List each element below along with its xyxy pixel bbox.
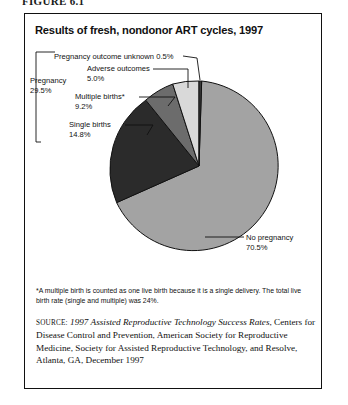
callout-no-pregnancy: No pregnancy 70.5%	[246, 233, 293, 252]
chart-footnote: *A multiple birth is counted as one live…	[36, 286, 312, 306]
figure-frame: Results of fresh, nondonor ART cycles, 1…	[24, 13, 322, 389]
callout-multiple-births-pct: 9.2%	[75, 102, 125, 112]
callout-single-births: Single births 14.8%	[69, 120, 111, 139]
callout-adverse-outcomes-pct: 5.0%	[87, 74, 150, 84]
callout-adverse-outcomes: Adverse outcomes 5.0%	[87, 64, 150, 83]
callout-single-births-text: Single births	[69, 120, 111, 129]
callout-pregnancy-group-text: Pregnancy	[30, 76, 66, 85]
callout-no-pregnancy-text: No pregnancy	[246, 233, 293, 242]
leader-line-unknown	[183, 56, 200, 80]
callout-outcome-unknown-text: Pregnancy outcome unknown 0.5%	[54, 52, 173, 61]
pie-chart: Pregnancy outcome unknown 0.5% Adverse o…	[25, 14, 323, 282]
pregnancy-group-bracket	[36, 52, 55, 142]
callout-adverse-outcomes-text: Adverse outcomes	[87, 64, 150, 73]
callout-multiple-births: Multiple births* 9.2%	[75, 92, 125, 111]
callout-single-births-pct: 14.8%	[69, 130, 111, 140]
source-publication-title: 1997 Assisted Reproductive Technology Su…	[70, 317, 269, 327]
figure-number-label: FIGURE 6.1	[22, 0, 84, 6]
source-keyword: source:	[36, 319, 68, 327]
source-note: source: 1997 Assisted Reproductive Techn…	[36, 316, 318, 367]
callout-multiple-births-text: Multiple births*	[75, 92, 125, 101]
callout-pregnancy-group: Pregnancy 29.5%	[30, 76, 66, 95]
callout-outcome-unknown: Pregnancy outcome unknown 0.5%	[54, 52, 173, 62]
callout-pregnancy-group-pct: 29.5%	[30, 86, 66, 96]
callout-no-pregnancy-pct: 70.5%	[246, 243, 293, 253]
